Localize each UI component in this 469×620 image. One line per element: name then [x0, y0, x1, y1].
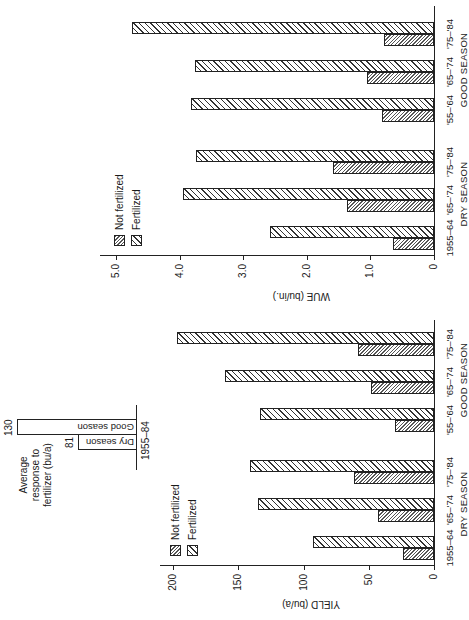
tick-label: 2.0 [302, 264, 312, 292]
axis-tick [243, 255, 244, 260]
bar-fertilized [313, 536, 434, 548]
fertilized-swatch [187, 545, 198, 556]
tick-label: 200 [168, 574, 178, 602]
axis-tick [307, 255, 308, 260]
tick-label: 0 [429, 574, 439, 602]
group-label-good: GOOD SEASON [458, 324, 469, 436]
legend-item-not-fertilized: Not fertilized [168, 484, 182, 556]
legend-item-fertilized: Fertilized [185, 484, 199, 556]
bar-not-fertilized [371, 382, 434, 394]
bar-fertilized [258, 498, 434, 510]
wue-y-axis [100, 255, 435, 256]
tick-label: 4.0 [175, 264, 185, 292]
bar-not-fertilized [354, 472, 434, 484]
tick-label: 100 [299, 574, 309, 602]
bar-not-fertilized [347, 200, 434, 212]
wue-x-axis [434, 6, 435, 256]
category-label: '75–'84 [444, 142, 455, 182]
legend-item-fertilized: Fertilized [129, 174, 143, 246]
bar-fertilized [250, 460, 434, 472]
bar-fertilized [260, 408, 434, 420]
inset-dry-value: 81 [64, 437, 75, 448]
bar-fertilized [183, 188, 434, 200]
category-label: '55–'64 [444, 400, 455, 440]
yield-axis-title: YIELD (bu/a) [282, 599, 340, 610]
inset-good-label: Good season [77, 422, 134, 433]
not-fertilized-swatch [170, 545, 181, 556]
inset-good-value: 130 [3, 419, 14, 436]
category-label: '65–'74 [444, 362, 455, 402]
legend-label: Fertilized [131, 189, 142, 230]
not-fertilized-swatch [114, 235, 125, 246]
bar-not-fertilized [378, 510, 434, 522]
wue-axis-title: WUE (bu/in.) [273, 291, 330, 302]
bar-fertilized [270, 226, 434, 238]
legend-item-not-fertilized: Not fertilized [112, 174, 126, 246]
bar-fertilized [195, 60, 434, 72]
bar-fertilized [191, 98, 434, 110]
inset-period: 1955–84 [140, 421, 151, 460]
axis-tick [369, 565, 370, 570]
group-label-dry: DRY SEASON [458, 448, 469, 560]
category-label: 1955–64 [444, 218, 455, 258]
bar-fertilized [196, 150, 434, 162]
bar-not-fertilized [384, 34, 434, 46]
tick-label: 50 [364, 574, 374, 602]
bar-fertilized [132, 22, 434, 34]
category-label: 1955–64 [444, 528, 455, 568]
bar-not-fertilized [382, 110, 434, 122]
legend-label: Not fertilized [114, 174, 125, 230]
figure-stage: 050100150200 YIELD (bu/a) Not fertilized… [0, 0, 469, 620]
axis-tick [434, 565, 435, 570]
axis-tick [180, 255, 181, 260]
bar-not-fertilized [367, 72, 434, 84]
inset-title: Average response to fertilizer (bu/a) [18, 425, 54, 525]
legend-label: Not fertilized [170, 484, 181, 540]
category-label: '75–'84 [444, 324, 455, 364]
bar-fertilized [225, 370, 434, 382]
category-label: '75–'84 [444, 14, 455, 54]
bar-not-fertilized [333, 162, 434, 174]
tick-label: 5.0 [111, 264, 121, 292]
yield-chart: 050100150200 YIELD (bu/a) Not fertilized… [0, 310, 469, 620]
yield-legend: Not fertilized Fertilized [168, 484, 202, 556]
axis-tick [116, 255, 117, 260]
axis-tick [434, 255, 435, 260]
legend-label: Fertilized [187, 499, 198, 540]
axis-tick [370, 255, 371, 260]
bar-not-fertilized [358, 344, 434, 356]
fertilized-swatch [131, 235, 142, 246]
wue-chart: 01.02.03.04.05.0 WUE (bu/in.) Not fertil… [0, 0, 469, 310]
group-label-good: GOOD SEASON [458, 14, 469, 126]
bar-fertilized [177, 332, 434, 344]
category-label: '65–'74 [444, 180, 455, 220]
category-label: '65–'74 [444, 490, 455, 530]
category-label: '55–'64 [444, 90, 455, 130]
tick-label: 3.0 [238, 264, 248, 292]
inset-dry-label: Dry season [86, 437, 134, 448]
group-label-dry: DRY SEASON [458, 138, 469, 250]
axis-tick [173, 565, 174, 570]
bar-not-fertilized [395, 420, 434, 432]
tick-label: 150 [233, 574, 243, 602]
category-label: '65–'74 [444, 52, 455, 92]
yield-y-axis [160, 565, 435, 566]
tick-label: 1.0 [365, 264, 375, 292]
axis-tick [304, 565, 305, 570]
bar-not-fertilized [393, 238, 434, 250]
axis-tick [238, 565, 239, 570]
bar-not-fertilized [403, 548, 434, 560]
tick-label: 0 [429, 264, 439, 292]
yield-x-axis [434, 320, 435, 566]
category-label: '75–'84 [444, 452, 455, 492]
wue-legend: Not fertilized Fertilized [112, 174, 146, 246]
